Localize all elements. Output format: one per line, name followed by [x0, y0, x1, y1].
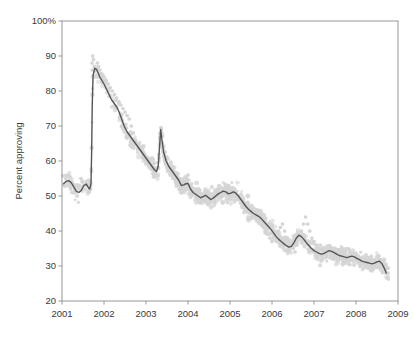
- approval-rating-figure: 2030405060708090100% 2001200220032004200…: [0, 0, 413, 339]
- svg-text:100%: 100%: [32, 15, 57, 26]
- svg-text:Percent approving: Percent approving: [13, 122, 24, 199]
- svg-text:2002: 2002: [93, 308, 114, 319]
- svg-text:2001: 2001: [51, 308, 72, 319]
- svg-text:50: 50: [45, 190, 56, 201]
- svg-text:2004: 2004: [177, 308, 198, 319]
- svg-text:2007: 2007: [303, 308, 324, 319]
- svg-text:80: 80: [45, 85, 56, 96]
- svg-text:2008: 2008: [345, 308, 366, 319]
- y-axis-ticks: 2030405060708090100%: [32, 15, 62, 306]
- svg-text:60: 60: [45, 155, 56, 166]
- svg-text:40: 40: [45, 225, 56, 236]
- svg-text:2006: 2006: [261, 308, 282, 319]
- scatter-points-layer: [61, 54, 390, 281]
- cut-off-caption-text: [0, 0, 413, 7]
- x-axis-ticks: 200120022003200420052006200720082009: [51, 301, 408, 319]
- svg-text:2003: 2003: [135, 308, 156, 319]
- svg-text:20: 20: [45, 295, 56, 306]
- approval-chart-svg: 2030405060708090100% 2001200220032004200…: [0, 0, 413, 339]
- y-axis-title: Percent approving: [13, 122, 24, 199]
- svg-text:90: 90: [45, 50, 56, 61]
- svg-text:70: 70: [45, 120, 56, 131]
- svg-text:30: 30: [45, 260, 56, 271]
- svg-text:2005: 2005: [219, 308, 240, 319]
- trend-line-layer: [64, 68, 387, 273]
- svg-text:2009: 2009: [387, 308, 408, 319]
